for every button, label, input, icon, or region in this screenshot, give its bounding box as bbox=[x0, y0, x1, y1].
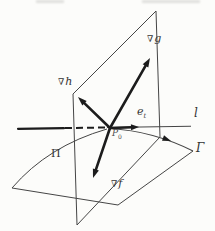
grad-h-letter: h bbox=[65, 75, 72, 88]
grad-h-arrow bbox=[83, 102, 110, 128]
nabla-icon: ∇ bbox=[147, 34, 153, 44]
grad-g-arrow bbox=[110, 64, 147, 128]
plane-pi-label: Π bbox=[51, 147, 61, 160]
unit-tangent-label: et bbox=[137, 105, 147, 120]
grad-f-label: ∇f bbox=[111, 177, 124, 190]
tangent-line-hidden-dashes bbox=[65, 127, 108, 128]
unit-tangent-arrowhead bbox=[131, 124, 139, 130]
tangent-line-left bbox=[18, 128, 64, 129]
grad-f-arrow bbox=[95, 128, 110, 171]
vector-diagram: ∇g ∇h ∇f et P0 l Γ Π bbox=[0, 0, 215, 231]
point-subscript: 0 bbox=[118, 133, 122, 140]
grad-h-label: ∇h bbox=[58, 75, 72, 88]
grad-g-label: ∇g bbox=[147, 32, 161, 45]
tangent-line-label: l bbox=[194, 106, 198, 120]
unit-tangent-subscript: t bbox=[144, 112, 147, 120]
nabla-icon: ∇ bbox=[58, 77, 64, 87]
curve-gamma-arrowhead bbox=[162, 135, 171, 141]
grad-g-letter: g bbox=[154, 32, 161, 45]
diagram-canvas: ∇g ∇h ∇f et P0 l Γ Π bbox=[0, 0, 215, 231]
grad-g-arrowhead bbox=[143, 58, 150, 67]
curve-gamma bbox=[110, 129, 193, 152]
sheet-right-edge bbox=[118, 151, 193, 205]
grad-f-arrowhead bbox=[93, 169, 99, 179]
nabla-icon: ∇ bbox=[111, 179, 117, 189]
sheet-bottom-edge bbox=[12, 188, 118, 205]
grad-f-letter: f bbox=[117, 177, 124, 190]
curve-gamma-label: Γ bbox=[195, 141, 205, 155]
